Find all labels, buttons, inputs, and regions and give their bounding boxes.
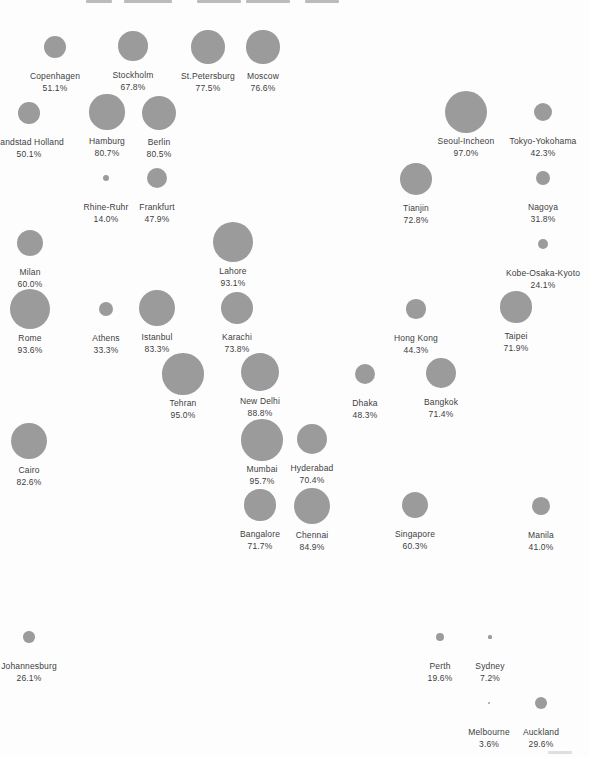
city-label-randstad-holland: Randstad Holland50.1% — [0, 136, 64, 160]
city-value: 83.3% — [142, 343, 173, 355]
city-value: 93.6% — [18, 344, 43, 356]
city-label-tehran: Tehran95.0% — [170, 397, 197, 421]
city-value: 31.8% — [528, 213, 558, 225]
city-label-karachi: Karachi73.8% — [222, 331, 252, 355]
city-value: 51.1% — [30, 82, 80, 94]
city-name: Frankfurt — [139, 201, 174, 213]
city-value: 97.0% — [438, 147, 495, 159]
city-bubble-milan — [17, 230, 43, 256]
city-bubble-randstad-holland — [18, 102, 40, 124]
city-label-perth: Perth19.6% — [428, 660, 453, 684]
city-name: Perth — [428, 660, 453, 672]
cropped-text-artifact — [305, 0, 339, 3]
city-name: Athens — [92, 332, 119, 344]
city-value: 19.6% — [428, 672, 453, 684]
city-label-moscow: Moscow76.6% — [247, 70, 279, 94]
city-value: 48.3% — [352, 409, 377, 421]
city-name: Bangalore — [240, 528, 280, 540]
city-value: 70.4% — [291, 474, 334, 486]
city-name: Moscow — [247, 70, 279, 82]
city-value: 84.9% — [296, 541, 329, 553]
city-bubble-perth — [436, 633, 445, 642]
bottom-right-smudge-artifact — [548, 751, 572, 754]
city-bubble-moscow — [246, 30, 279, 63]
city-bubble-dhaka — [355, 364, 376, 385]
city-name: Randstad Holland — [0, 136, 64, 148]
city-bubble-cairo — [11, 423, 47, 459]
city-label-tokyo-yokohama: Tokyo-Yokohama42.3% — [510, 135, 577, 159]
city-bubble-lahore — [213, 222, 253, 262]
city-value: 14.0% — [84, 213, 129, 225]
city-name: Manila — [528, 529, 554, 541]
city-value: 44.3% — [394, 344, 438, 356]
city-name: Rhine-Ruhr — [84, 201, 129, 213]
city-bubble-mumbai — [241, 419, 283, 461]
city-bubble-copenhagen — [44, 36, 66, 58]
city-label-cairo: Cairo82.6% — [17, 464, 42, 488]
city-value: 80.5% — [147, 148, 172, 160]
city-bubble-st-petersburg — [191, 30, 225, 64]
city-value: 71.9% — [504, 342, 529, 354]
city-name: Johannesburg — [1, 660, 57, 672]
city-name: Tianjin — [403, 202, 429, 214]
city-name: Singapore — [395, 528, 435, 540]
city-bubble-singapore — [402, 492, 428, 518]
city-value: 77.5% — [181, 82, 235, 94]
city-label-copenhagen: Copenhagen51.1% — [30, 70, 80, 94]
city-label-johannesburg: Johannesburg26.1% — [1, 660, 57, 684]
city-label-hamburg: Hamburg80.7% — [89, 135, 125, 159]
city-name: Copenhagen — [30, 70, 80, 82]
city-value: 47.9% — [139, 213, 174, 225]
city-bubble-nagoya — [536, 171, 550, 185]
city-label-st-petersburg: St.Petersburg77.5% — [181, 70, 235, 94]
city-bubble-tokyo-yokohama — [534, 103, 552, 121]
city-label-milan: Milan60.0% — [18, 266, 43, 290]
city-name: Bangkok — [424, 396, 458, 408]
city-label-frankfurt: Frankfurt47.9% — [139, 201, 174, 225]
city-value: 73.8% — [222, 343, 252, 355]
city-label-melbourne: Melbourne3.6% — [468, 726, 510, 750]
city-label-seoul-incheon: Seoul-Incheon97.0% — [438, 135, 495, 159]
city-bubble-istanbul — [139, 290, 175, 326]
city-name: Chennai — [296, 529, 329, 541]
city-name: Mumbai — [246, 463, 277, 475]
city-value: 71.4% — [424, 408, 458, 420]
city-label-taipei: Taipei71.9% — [504, 330, 529, 354]
city-name: Istanbul — [142, 331, 173, 343]
city-bubble-melbourne — [488, 702, 490, 704]
city-bubble-tianjin — [400, 163, 432, 195]
city-bubble-bangkok — [426, 358, 457, 389]
city-bubble-chennai — [294, 488, 331, 525]
city-bubble-new-delhi — [241, 353, 280, 392]
city-label-hong-kong: Hong Kong44.3% — [394, 332, 438, 356]
city-label-new-delhi: New Delhi88.8% — [240, 395, 280, 419]
city-value: 93.1% — [219, 277, 246, 289]
city-name: Rome — [18, 332, 43, 344]
city-label-athens: Athens33.3% — [92, 332, 119, 356]
city-value: 95.7% — [246, 475, 277, 487]
city-value: 67.8% — [112, 81, 153, 93]
city-value: 71.7% — [240, 540, 280, 552]
city-label-bangalore: Bangalore71.7% — [240, 528, 280, 552]
city-bubble-frankfurt — [147, 168, 168, 189]
city-label-mumbai: Mumbai95.7% — [246, 463, 277, 487]
city-name: Cairo — [17, 464, 42, 476]
city-label-auckland: Auckland29.6% — [523, 726, 559, 750]
city-label-stockholm: Stockholm67.8% — [112, 69, 153, 93]
city-bubble-taipei — [500, 291, 531, 322]
city-name: Taipei — [504, 330, 529, 342]
city-value: 41.0% — [528, 541, 554, 553]
city-value: 3.6% — [468, 738, 510, 750]
city-bubble-hong-kong — [406, 299, 425, 318]
city-bubble-stockholm — [118, 31, 147, 60]
cropped-text-artifact — [124, 0, 172, 3]
city-bubble-rome — [10, 289, 51, 330]
city-name: Karachi — [222, 331, 252, 343]
city-name: Hamburg — [89, 135, 125, 147]
cropped-text-artifact — [197, 0, 241, 3]
city-value: 26.1% — [1, 672, 57, 684]
city-bubble-rhine-ruhr — [103, 175, 109, 181]
city-bubble-karachi — [221, 292, 253, 324]
city-label-rome: Rome93.6% — [18, 332, 43, 356]
city-name: Melbourne — [468, 726, 510, 738]
